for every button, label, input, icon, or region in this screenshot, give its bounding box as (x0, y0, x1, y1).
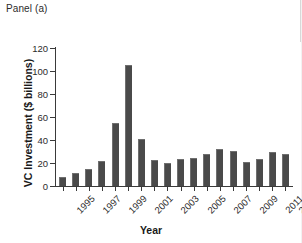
y-tick-label: 60 (37, 112, 48, 123)
x-tick-label: 2007 (231, 193, 254, 216)
x-tick-label: 1999 (126, 193, 149, 216)
x-tick-mark (259, 187, 260, 191)
x-tick-mark (167, 187, 168, 191)
x-tick-mark (154, 187, 155, 191)
x-tick-mark (272, 187, 273, 191)
y-tick-mark (50, 94, 55, 95)
y-tick-label: 100 (32, 66, 48, 77)
y-tick-mark (50, 117, 55, 118)
bar (203, 154, 210, 186)
bar (216, 149, 223, 186)
bar (112, 123, 119, 186)
x-tick-mark (141, 187, 142, 191)
x-tick-mark (194, 187, 195, 191)
bar (164, 163, 171, 186)
bar (243, 162, 250, 186)
x-tick-mark (233, 187, 234, 191)
x-tick-mark (63, 187, 64, 191)
y-tick-label: 120 (32, 43, 48, 54)
x-tick-label: 2005 (205, 193, 228, 216)
bar (72, 173, 79, 186)
y-tick-mark (50, 48, 55, 49)
y-tick-mark (50, 140, 55, 141)
bar (85, 169, 92, 186)
x-tick-label: 2009 (257, 193, 280, 216)
bar (98, 161, 105, 186)
x-tick-mark (102, 187, 103, 191)
bar (138, 139, 145, 186)
x-axis-line (55, 186, 293, 187)
x-tick-mark (207, 187, 208, 191)
bar (256, 159, 263, 186)
plot-area (56, 48, 292, 186)
bar (177, 159, 184, 186)
bar (230, 151, 237, 186)
x-tick-mark (220, 187, 221, 191)
bar (125, 65, 132, 186)
bar (59, 177, 66, 186)
x-tick-label: 1995 (74, 193, 97, 216)
y-tick-mark (50, 163, 55, 164)
x-axis-title: Year (0, 224, 302, 236)
x-tick-mark (89, 187, 90, 191)
y-tick-mark (50, 186, 55, 187)
bar (190, 158, 197, 186)
x-tick-label: 2001 (152, 193, 175, 216)
bar (151, 160, 158, 186)
y-axis-title: VC Investment ($ billions) (22, 48, 34, 198)
x-tick-mark (115, 187, 116, 191)
x-tick-label: 1997 (100, 193, 123, 216)
y-tick-label: 20 (37, 158, 48, 169)
x-tick-mark (246, 187, 247, 191)
vc-investment-bar-chart: 020406080100120 VC Investment ($ billion… (0, 0, 302, 243)
y-tick-label: 40 (37, 135, 48, 146)
y-tick-label: 0 (43, 181, 48, 192)
x-tick-label: 2003 (179, 193, 202, 216)
y-tick-label: 80 (37, 89, 48, 100)
bar (269, 152, 276, 187)
x-tick-mark (181, 187, 182, 191)
y-tick-mark (50, 71, 55, 72)
x-tick-mark (76, 187, 77, 191)
x-tick-mark (285, 187, 286, 191)
x-tick-mark (128, 187, 129, 191)
bar (282, 154, 289, 186)
